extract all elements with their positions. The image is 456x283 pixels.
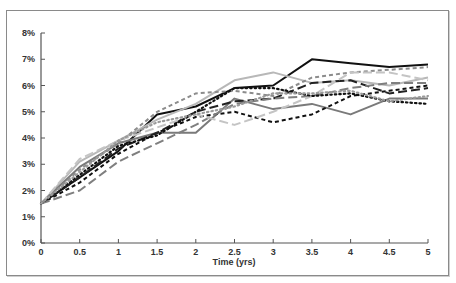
x-tick-label: 3.5 (306, 247, 319, 257)
x-tick-label: 1.5 (151, 247, 164, 257)
series-line (41, 72, 428, 203)
series-line (41, 83, 428, 204)
x-tick-label: 2 (193, 247, 198, 257)
x-tick-label: 3 (271, 247, 276, 257)
y-axis: 0%1%2%3%4%5%6%7%8% (22, 28, 45, 248)
series-line (41, 91, 428, 204)
x-tick-label: 5 (425, 247, 430, 257)
x-tick-label: 0 (38, 247, 43, 257)
y-tick-label: 6% (22, 81, 35, 91)
series-group (41, 59, 428, 203)
x-axis: 00.511.522.533.544.55 (38, 239, 430, 257)
x-tick-label: 4 (348, 247, 353, 257)
y-tick-label: 7% (22, 54, 35, 64)
y-tick-label: 0% (22, 238, 35, 248)
series-line (41, 86, 428, 204)
y-tick-label: 4% (22, 133, 35, 143)
series-line (41, 72, 428, 203)
y-tick-label: 2% (22, 186, 35, 196)
y-tick-label: 1% (22, 212, 35, 222)
y-tick-label: 5% (22, 107, 35, 117)
x-tick-label: 1 (116, 247, 121, 257)
y-tick-label: 8% (22, 28, 35, 38)
x-axis-title: Time (yrs) (213, 257, 256, 267)
line-chart: 0%1%2%3%4%5%6%7%8% 00.511.522.533.544.55… (0, 0, 456, 283)
x-tick-label: 0.5 (73, 247, 86, 257)
x-tick-label: 4.5 (383, 247, 396, 257)
x-tick-label: 2.5 (228, 247, 241, 257)
y-tick-label: 3% (22, 159, 35, 169)
